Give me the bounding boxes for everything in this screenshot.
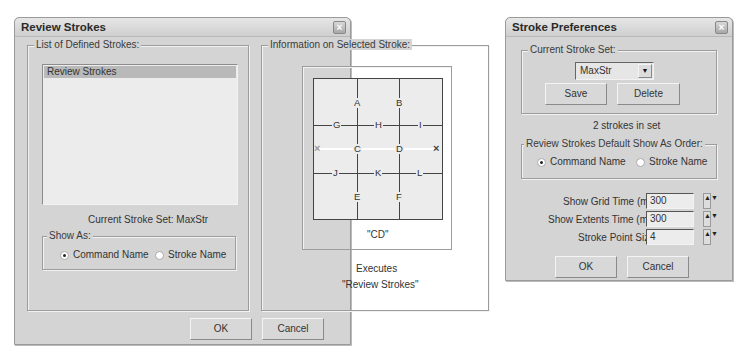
executes-command: "Review Strokes" (342, 279, 419, 290)
show-extents-time-input[interactable]: 300 (646, 211, 694, 227)
dropdown-value: MaxStr (580, 65, 612, 76)
defined-strokes-group: List of Defined Strokes: Review Strokes … (27, 45, 249, 311)
show-extents-time-label: Show Extents Time (ms): (548, 214, 659, 225)
grid-label-h: H (374, 120, 383, 130)
stroke-end-icon: × (433, 143, 439, 154)
list-item[interactable]: Review Strokes (44, 66, 236, 78)
stroke-set-dropdown[interactable]: MaxStr ▼ (575, 62, 654, 80)
stroke-grid: × × A B G H I C D J K L E F (313, 78, 443, 220)
radio-command-name[interactable] (537, 158, 546, 167)
stroke-path (319, 148, 437, 150)
current-stroke-set-label: Current Stroke Set: MaxStr (88, 214, 208, 225)
radio-stroke-name[interactable] (636, 158, 645, 167)
grid-label-e: E (353, 192, 361, 202)
group-label: List of Defined Strokes: (34, 39, 141, 50)
grid-label-k: K (374, 168, 382, 178)
close-icon[interactable]: × (715, 21, 728, 34)
selected-stroke-info-group: Information on Selected Stroke: × × A B … (261, 45, 489, 311)
grid-label-i: I (418, 120, 423, 130)
radio-label: Stroke Name (168, 249, 226, 260)
window-title: Review Strokes (21, 21, 106, 33)
grid-label-l: L (416, 168, 423, 178)
close-icon[interactable]: × (333, 21, 346, 34)
radio-stroke-name[interactable] (155, 251, 164, 260)
stroke-grid-frame: × × A B G H I C D J K L E F "CD" (302, 66, 452, 250)
review-strokes-window: Review Strokes × List of Defined Strokes… (14, 17, 351, 345)
group-label: Review Strokes Default Show As Order: (524, 138, 705, 149)
current-stroke-set-group: Current Stroke Set: MaxStr ▼ Save Delete (521, 50, 717, 114)
delete-button[interactable]: Delete (617, 83, 680, 105)
spinner-icon[interactable]: ▲▼ (703, 229, 711, 245)
ok-button[interactable]: OK (190, 318, 252, 340)
grid-label-f: F (395, 192, 403, 202)
grid-label-d: D (395, 144, 404, 154)
grid-label-b: B (395, 98, 403, 108)
stroke-point-size-input[interactable]: 4 (646, 229, 694, 245)
show-as-group: Show As: Command Name Stroke Name (42, 236, 236, 270)
radio-label: Stroke Name (649, 156, 707, 167)
radio-label: Command Name (550, 156, 626, 167)
chevron-down-icon[interactable]: ▼ (638, 64, 652, 78)
grid-label-g: G (332, 120, 341, 130)
group-label: Current Stroke Set: (528, 44, 618, 55)
grid-label-j: J (332, 168, 339, 178)
radio-label: Command Name (73, 249, 149, 260)
group-label: Information on Selected Stroke: (268, 39, 412, 50)
review-strokes-titlebar[interactable]: Review Strokes × (15, 18, 350, 37)
grid-label-c: C (353, 144, 362, 154)
group-label: Show As: (47, 230, 93, 241)
cancel-button[interactable]: Cancel (627, 256, 689, 278)
spinner-icon[interactable]: ▲▼ (703, 193, 711, 209)
strokes-count: 2 strokes in set (593, 120, 660, 131)
stroke-preferences-window: Stroke Preferences × Current Stroke Set:… (505, 17, 733, 281)
save-button[interactable]: Save (545, 83, 607, 105)
strokes-listbox[interactable]: Review Strokes (42, 64, 238, 205)
default-show-as-order-group: Review Strokes Default Show As Order: Co… (521, 144, 717, 179)
spinner-icon[interactable]: ▲▼ (703, 211, 711, 227)
stroke-preferences-titlebar[interactable]: Stroke Preferences × (506, 18, 732, 37)
ok-button[interactable]: OK (555, 256, 617, 278)
show-grid-time-input[interactable]: 300 (646, 193, 694, 209)
grid-label-a: A (353, 98, 361, 108)
window-title: Stroke Preferences (512, 21, 617, 33)
stroke-start-icon: × (314, 143, 320, 154)
radio-command-name[interactable] (60, 251, 69, 260)
executes-label: Executes (356, 263, 397, 274)
cancel-button[interactable]: Cancel (262, 318, 324, 340)
stroke-code: "CD" (367, 229, 389, 240)
